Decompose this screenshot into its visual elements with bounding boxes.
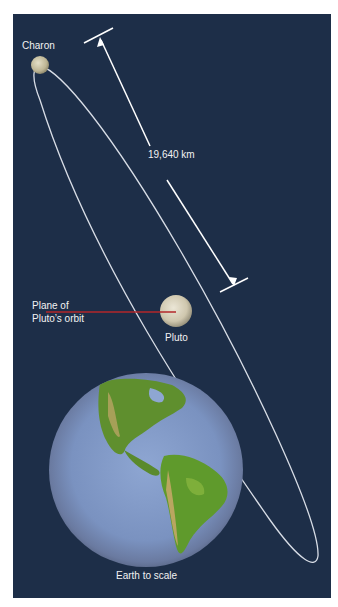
pluto-label: Pluto [165,332,188,343]
earth [49,373,243,567]
earth-label: Earth to scale [116,570,178,581]
distance-label: 19,640 km [148,149,195,160]
charon-label: Charon [22,40,55,51]
charon [31,56,49,74]
orbit-plane-label-line1: Plane of [32,300,69,311]
pluto [160,295,192,327]
pluto-charon-orbit-diagram: Charon 19,640 km Plane of Pluto’s orbit … [0,0,338,607]
orbit-plane-label-line2: Pluto’s orbit [32,313,84,324]
